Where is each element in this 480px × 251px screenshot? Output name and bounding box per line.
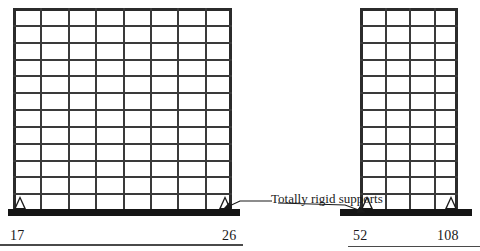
node-label-108: 108: [437, 228, 459, 244]
pin-support-triangle-inner: [221, 199, 229, 208]
right-rigid-ground-slab: [340, 209, 472, 216]
annotation-totally-rigid-supports: Totally rigid supports: [271, 191, 383, 207]
interior-column: [205, 8, 207, 210]
interior-column: [409, 8, 411, 210]
interior-column: [434, 8, 436, 210]
interior-column: [150, 8, 152, 210]
interior-column: [95, 8, 97, 210]
pin-support-triangle-inner: [447, 199, 455, 208]
node-label-17: 17: [10, 228, 25, 244]
bottom-rule-right: [348, 246, 480, 247]
interior-column: [123, 8, 125, 210]
pin-support-triangle-inner: [16, 199, 24, 208]
bottom-rule-left: [0, 244, 243, 246]
node-label-52: 52: [353, 228, 368, 244]
interior-column: [385, 8, 387, 210]
left-rigid-ground-slab: [8, 209, 240, 216]
structural-frame-diagram: 17 26 52 108 Totally rigid supports: [0, 0, 480, 251]
interior-column: [177, 8, 179, 210]
interior-column: [68, 8, 70, 210]
node-label-26: 26: [222, 228, 237, 244]
leader-arrow-left: [225, 201, 272, 208]
interior-column: [40, 8, 42, 210]
